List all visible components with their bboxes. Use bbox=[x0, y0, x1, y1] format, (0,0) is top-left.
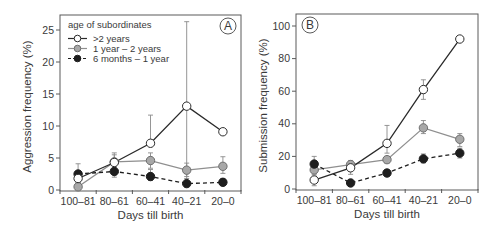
x-axis-label: Days till birth bbox=[354, 208, 420, 220]
data-point bbox=[383, 169, 391, 177]
data-point bbox=[383, 139, 391, 147]
y-tick-label: 10 bbox=[42, 120, 54, 132]
data-point bbox=[219, 162, 227, 170]
y-tick-label: 0 bbox=[284, 183, 290, 195]
y-tick-label: 100 bbox=[272, 20, 290, 32]
data-point bbox=[383, 155, 391, 163]
data-point bbox=[219, 128, 227, 136]
legend-marker bbox=[74, 55, 81, 62]
y-tick-label: 0 bbox=[48, 184, 54, 196]
y-tick-label: 40 bbox=[278, 117, 290, 129]
data-point bbox=[419, 124, 427, 132]
y-tick-label: 25 bbox=[42, 24, 54, 36]
y-tick-label: 60 bbox=[278, 85, 290, 97]
y-tick-label: 20 bbox=[278, 150, 290, 162]
data-point bbox=[456, 35, 464, 43]
y-tick-label: 15 bbox=[42, 88, 54, 100]
panel-label: A bbox=[224, 19, 232, 33]
data-point bbox=[74, 183, 82, 191]
y-tick-label: 5 bbox=[48, 152, 54, 164]
x-tick-label: 100–81 bbox=[61, 195, 96, 207]
data-point bbox=[183, 179, 191, 187]
y-axis-label: Submission frequency (%) bbox=[257, 38, 269, 172]
data-point bbox=[110, 167, 118, 175]
legend-marker bbox=[74, 35, 81, 42]
x-tick-label: 20–0 bbox=[211, 195, 235, 207]
x-tick-label: 80–61 bbox=[336, 194, 365, 206]
data-point bbox=[146, 172, 154, 180]
data-point bbox=[419, 155, 427, 163]
data-point bbox=[456, 149, 464, 157]
x-tick-label: 60–41 bbox=[136, 195, 165, 207]
data-point bbox=[310, 176, 318, 184]
data-point bbox=[183, 166, 191, 174]
figure: 0510152025100–8180–6160–4140–2120–0Days … bbox=[0, 0, 501, 227]
legend: age of subordinates>2 years1 year – 2 ye… bbox=[68, 19, 169, 64]
data-point bbox=[74, 174, 82, 182]
data-point bbox=[219, 178, 227, 186]
x-axis-label: Days till birth bbox=[118, 209, 184, 221]
y-tick-label: 80 bbox=[278, 52, 290, 64]
data-point bbox=[110, 158, 118, 166]
data-point bbox=[456, 135, 464, 143]
data-point bbox=[146, 156, 154, 164]
panel-b-submission-chart: 020406080100100–8180–6160–4140–2120–0Day… bbox=[257, 14, 478, 220]
panel-label: B bbox=[306, 18, 314, 32]
y-axis-label: Aggression frequency (%) bbox=[21, 40, 33, 172]
x-tick-label: 100–81 bbox=[297, 194, 332, 206]
legend-title: age of subordinates bbox=[68, 19, 152, 30]
data-point bbox=[419, 85, 427, 93]
legend-entry-label: 6 months – 1 year bbox=[93, 53, 169, 64]
x-tick-label: 80–61 bbox=[100, 195, 129, 207]
x-tick-label: 40–21 bbox=[409, 194, 438, 206]
x-tick-label: 20–0 bbox=[448, 194, 472, 206]
data-point bbox=[183, 102, 191, 110]
data-point bbox=[346, 179, 354, 187]
data-point bbox=[146, 139, 154, 147]
x-tick-label: 60–41 bbox=[372, 194, 401, 206]
x-tick-label: 40–21 bbox=[172, 195, 201, 207]
y-tick-label: 20 bbox=[42, 56, 54, 68]
data-point bbox=[310, 160, 318, 168]
chart-canvas: 0510152025100–8180–6160–4140–2120–0Days … bbox=[0, 0, 501, 227]
data-point bbox=[346, 164, 354, 172]
legend-marker bbox=[74, 45, 81, 52]
panel-a-aggression-chart: 0510152025100–8180–6160–4140–2120–0Days … bbox=[21, 15, 241, 221]
